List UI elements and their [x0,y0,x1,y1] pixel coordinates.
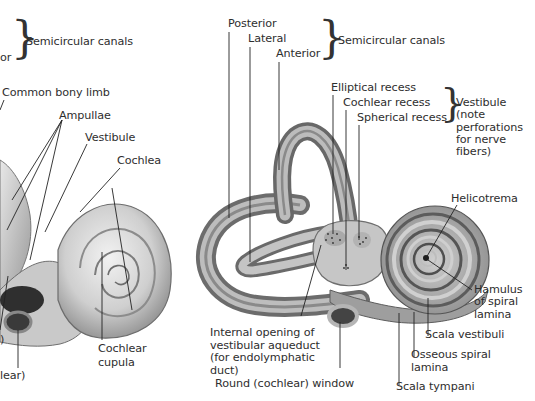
left-cochlea [58,204,171,338]
label-elliptical-recess: Elliptical recess [331,82,416,95]
label-common-bony-limb: Common bony limb [2,87,110,100]
label-hamulus-of-spiral-lamina: Hamulus of spiral lamina [474,284,523,321]
label-partial-anterior: or [0,52,11,65]
right-cochlea [381,206,489,314]
label-posterior: Posterior [228,18,277,31]
label-left-semicircular-canals: Semicircular canals [26,36,133,49]
label-round-cochlear-window: Round (cochlear) window [215,378,354,391]
label-spherical-recess: Spherical recess [357,112,447,125]
label-osseous-spiral-lamina: Osseous spiral lamina [411,349,491,374]
label-partial-cochlear-window: lear) [0,370,25,383]
label-lateral: Lateral [248,33,286,46]
label-anterior: Anterior [276,48,320,61]
label-left-vestibule: Vestibule [85,132,135,145]
label-left-cochlea: Cochlea [117,155,161,168]
label-helicotrema: Helicotrema [451,193,518,206]
label-vestibule-note: Vestibule (note perforations for nerve f… [456,97,523,158]
label-partial-paren: ) [0,334,4,347]
label-right-semicircular-canals: Semicircular canals [338,35,445,48]
left-bony-labyrinth [0,160,171,346]
label-ampullae: Ampullae [59,110,111,123]
label-cochlear-cupula: Cochlear cupula [98,342,147,370]
label-scala-tympani: Scala tympani [396,381,474,394]
label-internal-opening-vestibular-aqueduct: Internal opening of vestibular aqueduct … [210,327,320,377]
right-bony-labyrinth [206,131,489,326]
label-cochlear-recess: Cochlear recess [343,97,430,110]
label-scala-vestibuli: Scala vestibuli [425,329,504,342]
